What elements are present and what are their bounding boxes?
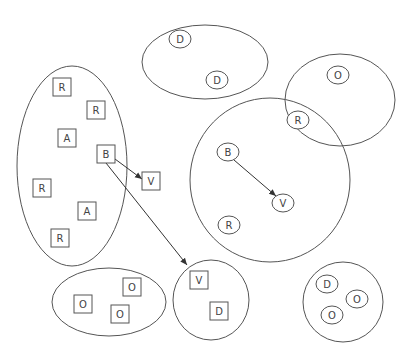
node-label: B	[225, 147, 232, 158]
circle-node-d: D	[316, 275, 338, 293]
square-node-a: A	[78, 202, 96, 220]
square-node-r: R	[87, 101, 105, 119]
node-label: A	[84, 206, 91, 217]
node-label: R	[39, 183, 46, 194]
node-label: R	[93, 105, 100, 116]
node-label: V	[148, 176, 155, 187]
circle-node-o: O	[346, 290, 368, 308]
square-node-d: D	[210, 302, 228, 320]
node-label: R	[57, 233, 64, 244]
circle-node-r: R	[218, 216, 240, 234]
circle-node-d: D	[206, 71, 228, 89]
group-bottom-right	[303, 262, 383, 342]
edge-arrow	[234, 160, 276, 196]
node-label: R	[59, 82, 66, 93]
square-node-o: O	[123, 278, 141, 296]
square-node-a: A	[58, 129, 76, 147]
square-node-v: V	[190, 271, 208, 289]
group-bottom-mid	[173, 260, 249, 340]
edges-layer	[106, 159, 276, 265]
group-top	[142, 25, 268, 99]
node-label: O	[116, 309, 124, 320]
group-big-circle	[190, 98, 350, 262]
square-node-v: V	[142, 172, 160, 190]
node-label: D	[215, 306, 223, 317]
square-node-r: R	[53, 78, 71, 96]
square-node-r: R	[51, 229, 69, 247]
square-node-o: O	[111, 305, 129, 323]
square-node-o: O	[74, 295, 92, 313]
edge-arrow	[115, 159, 142, 179]
nodes-layer: RRABVRARDDORBVROOOVDDOO	[33, 30, 368, 324]
node-label: O	[128, 282, 136, 293]
node-label: V	[196, 275, 203, 286]
diagram-canvas: RRABVRARDDORBVROOOVDDOO	[0, 0, 397, 354]
circle-node-v: V	[272, 194, 294, 212]
node-label: D	[213, 75, 221, 86]
square-node-r: R	[33, 179, 51, 197]
square-node-b: B	[97, 145, 115, 163]
node-label: O	[334, 70, 342, 81]
circle-node-o: O	[327, 66, 349, 84]
node-label: R	[295, 115, 302, 126]
circle-node-b: B	[217, 143, 239, 161]
node-label: V	[280, 198, 287, 209]
node-label: R	[226, 220, 233, 231]
node-label: A	[64, 133, 71, 144]
node-label: B	[103, 149, 110, 160]
circle-node-d: D	[169, 30, 191, 48]
node-label: O	[353, 294, 361, 305]
node-label: D	[323, 279, 331, 290]
node-label: D	[176, 34, 184, 45]
node-label: O	[328, 310, 336, 321]
circle-node-o: O	[321, 306, 343, 324]
group-bottom-left	[52, 268, 166, 336]
group-left	[17, 66, 127, 266]
circle-node-r: R	[287, 111, 309, 129]
node-label: O	[79, 299, 87, 310]
